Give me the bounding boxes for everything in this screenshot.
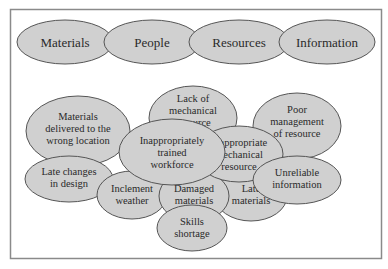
- cause-line: mechanical: [169, 105, 217, 116]
- cause-line: Inappropriately: [140, 135, 205, 146]
- cause-materials-delivered-wrong-location: Materials delivered to the wrong locatio…: [26, 96, 130, 166]
- cause-unreliable-information: Unreliable information: [253, 156, 341, 204]
- cause-line: management: [270, 116, 324, 127]
- category-label: Information: [296, 35, 359, 50]
- cause-line: in design: [50, 178, 89, 189]
- cause-line: Poor: [287, 104, 307, 115]
- category-label: People: [134, 35, 170, 50]
- category-label: Resources: [212, 35, 265, 50]
- cause-line: resource: [221, 161, 257, 172]
- cause-line: shortage: [174, 228, 210, 239]
- cause-line: materials: [175, 195, 213, 206]
- cause-diagram: Materials People Resources Information M…: [0, 0, 388, 269]
- cause-line: Skills: [180, 216, 204, 227]
- cause-line: trained: [157, 147, 187, 158]
- cause-line: weather: [115, 195, 149, 206]
- cause-line: wrong location: [46, 135, 110, 146]
- cause-line: of resource: [274, 128, 321, 139]
- cause-line: Inclement: [111, 183, 153, 194]
- cause-line: delivered to the: [45, 123, 111, 134]
- cause-inappropriately-trained-workforce: Inappropriately trained workforce: [119, 119, 225, 185]
- cause-line: workforce: [150, 159, 193, 170]
- category-materials: Materials: [17, 20, 113, 64]
- cause-line: Unreliable: [275, 167, 320, 178]
- category-information: Information: [279, 20, 375, 64]
- cause-line: Lack of: [177, 93, 210, 104]
- cause-line: Materials: [58, 111, 98, 122]
- cause-line: information: [272, 179, 322, 190]
- category-people: People: [104, 20, 200, 64]
- category-label: Materials: [40, 35, 89, 50]
- cause-skills-shortage: Skills shortage: [157, 205, 227, 251]
- category-resources: Resources: [189, 20, 289, 64]
- cause-line: Late changes: [41, 166, 96, 177]
